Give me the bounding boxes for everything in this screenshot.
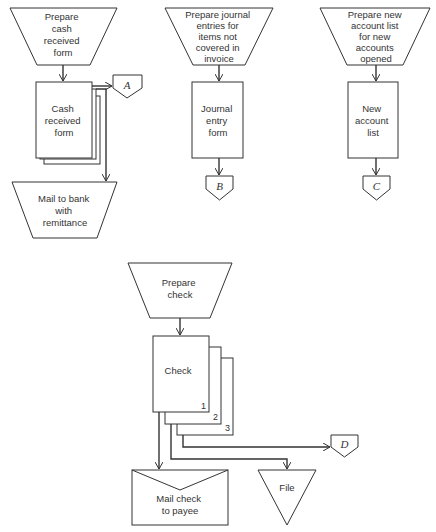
envelope-label: Mail check to payee xyxy=(156,493,204,516)
connector-label-a: A xyxy=(123,79,131,91)
flow-cash-received: Prepare cash received form Cash received… xyxy=(10,8,142,238)
copy-number-1: 1 xyxy=(201,401,206,411)
connector-label-c: C xyxy=(373,180,381,192)
copy-number-2: 2 xyxy=(213,412,218,422)
file-label: File xyxy=(279,482,294,493)
file-triangle xyxy=(258,470,316,525)
copy-number-3: 3 xyxy=(225,423,230,433)
document-label: Check xyxy=(165,365,192,376)
flow-journal-entry: Prepare journal entries for items not co… xyxy=(165,8,273,200)
flowchart-canvas: Prepare cash received form Cash received… xyxy=(0,0,436,532)
connector-label-d: D xyxy=(340,438,349,450)
flow-check: Prepare check Check 1 2 3 D Mail check t… xyxy=(128,263,358,525)
connector-label-b: B xyxy=(216,180,223,192)
arrow-to-connector-d xyxy=(183,435,330,447)
flow-new-account: Prepare new account list for new account… xyxy=(320,8,430,200)
